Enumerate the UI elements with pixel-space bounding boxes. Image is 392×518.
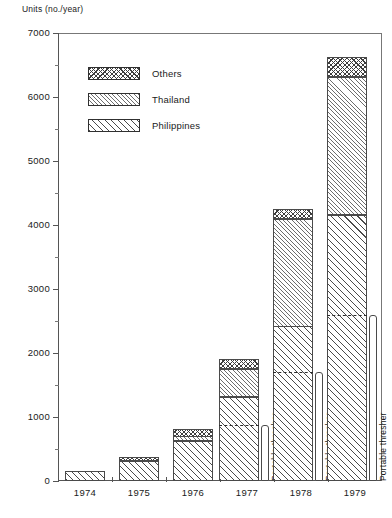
y-tick-major (53, 289, 59, 290)
bar-segment (173, 429, 213, 437)
y-tick-major (53, 161, 59, 162)
y-tick-minor (55, 449, 59, 450)
portable-thresher-bracket (369, 315, 377, 481)
chart-container: Units (no./year) 01000200030004000500060… (0, 0, 392, 518)
bar-segment (219, 397, 259, 481)
y-tick-minor (55, 257, 59, 258)
x-tick-label: 1975 (109, 487, 169, 498)
portable-thresher-bracket (261, 425, 269, 481)
y-tick-major (53, 417, 59, 418)
y-tick-minor (55, 65, 59, 66)
legend-label-thailand: Thailand (152, 94, 190, 105)
y-tick-major (53, 97, 59, 98)
x-tick-label: 1974 (55, 487, 115, 498)
x-tick-mark (112, 477, 113, 482)
y-axis-title: Units (no./year) (22, 4, 83, 14)
x-tick-label: 1978 (271, 487, 331, 498)
plot-frame-top-edge (58, 33, 382, 34)
y-tick-major (53, 33, 59, 34)
y-tick-minor (55, 321, 59, 322)
y-tick-minor (55, 385, 59, 386)
bar-segment (273, 209, 313, 219)
y-tick-minor (55, 129, 59, 130)
legend-label-philippines: Philippines (152, 120, 200, 131)
bar-segment (119, 461, 159, 481)
x-tick-label: 1976 (163, 487, 223, 498)
bar-segment (219, 359, 259, 369)
x-tick-label: 1979 (325, 487, 385, 498)
y-tick-label: 6000 (4, 91, 50, 102)
portable-thresher-divider (273, 372, 313, 373)
y-tick-label: 7000 (4, 27, 50, 38)
legend-label-others: Others (152, 68, 182, 79)
y-tick-label: 1000 (4, 411, 50, 422)
bar-segment (273, 219, 313, 327)
portable-thresher-divider (219, 425, 259, 426)
bar-segment (173, 441, 213, 481)
portable-thresher-bracket (315, 372, 323, 481)
y-tick-label: 2000 (4, 347, 50, 358)
y-tick-major (53, 481, 59, 482)
bar-segment (327, 215, 367, 481)
x-tick-mark (166, 477, 167, 482)
legend-swatch-thailand-icon (88, 93, 140, 106)
bar-segment (327, 77, 367, 215)
legend-swatch-philippines-icon (88, 119, 140, 132)
y-tick-label: 3000 (4, 283, 50, 294)
y-tick-major (53, 353, 59, 354)
legend-swatch-others-icon (88, 67, 140, 80)
bar-segment (327, 57, 367, 77)
portable-thresher-label: Portable thresher (378, 389, 388, 481)
y-tick-label: 4000 (4, 219, 50, 230)
y-tick-major (53, 225, 59, 226)
bar-segment (219, 369, 259, 397)
bar-segment (65, 471, 105, 481)
y-tick-minor (55, 193, 59, 194)
bar-segment (119, 457, 159, 461)
bar-segment (273, 326, 313, 481)
y-tick-label: 5000 (4, 155, 50, 166)
x-tick-label: 1977 (217, 487, 277, 498)
portable-thresher-divider (327, 315, 367, 316)
y-tick-label: 0 (4, 475, 50, 486)
